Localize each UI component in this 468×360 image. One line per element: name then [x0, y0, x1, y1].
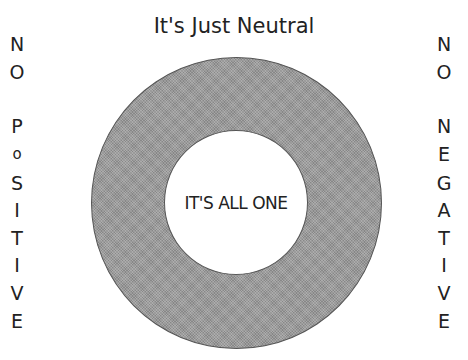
left-letter: S: [2, 173, 32, 193]
right-letter: I: [429, 255, 459, 275]
left-letter: I: [2, 255, 32, 275]
center-label: IT'S ALL ONE: [184, 193, 287, 213]
right-letter: A: [429, 200, 459, 220]
right-letter: N: [429, 116, 459, 136]
right-letter: T: [429, 228, 459, 248]
right-letter: E: [429, 311, 459, 331]
center-circle: IT'S ALL ONE: [164, 130, 308, 275]
diagram-title: It's Just Neutral: [0, 14, 468, 38]
left-letter: V: [2, 283, 32, 303]
right-letter: E: [429, 144, 459, 164]
right-letter: N: [429, 34, 459, 54]
left-letter: N: [2, 34, 32, 54]
left-letter: O: [2, 62, 32, 82]
left-letter: T: [2, 228, 32, 248]
left-letter: o: [2, 144, 32, 164]
left-letter: P: [2, 116, 32, 136]
left-letter: I: [2, 200, 32, 220]
left-letter: E: [2, 311, 32, 331]
right-letter: G: [429, 173, 459, 193]
right-letter: O: [429, 62, 459, 82]
right-letter: V: [429, 283, 459, 303]
